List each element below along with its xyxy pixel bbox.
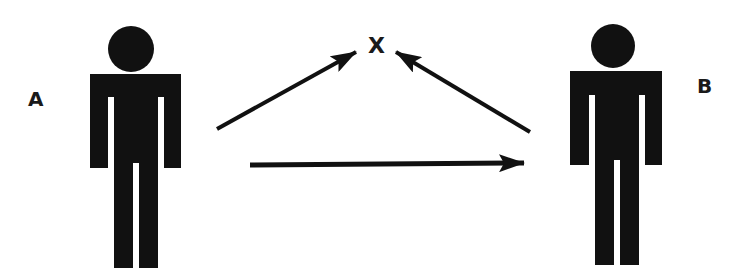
label-a: A	[28, 89, 43, 109]
person-b-body	[570, 71, 662, 265]
arrow-a-to-x	[217, 52, 356, 129]
arrow-b-to-x	[396, 52, 530, 132]
label-b: B	[697, 76, 712, 96]
arrow-a-to-b	[250, 163, 524, 165]
label-x: X	[368, 36, 385, 56]
person-b-head	[591, 24, 635, 68]
person-a-head	[108, 26, 154, 72]
person-a-figure	[90, 26, 181, 268]
person-b-figure	[570, 24, 662, 265]
person-a-body	[90, 74, 181, 268]
